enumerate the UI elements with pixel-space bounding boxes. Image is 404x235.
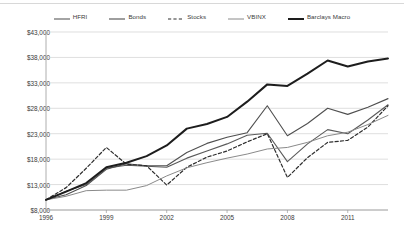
series-line-barclays-macro — [46, 58, 388, 199]
legend-item-barclays-macro[interactable]: Barclays Macro — [288, 13, 350, 20]
plot-area — [46, 32, 388, 210]
x-axis-tick-label: 2011 — [341, 214, 355, 221]
legend-label: VBINX — [247, 13, 266, 20]
x-axis-tick-label: 2005 — [220, 214, 234, 221]
series-layer — [46, 32, 388, 210]
legend-label: Stocks — [187, 13, 206, 20]
y-axis-tick-label: $43,000 — [6, 29, 50, 36]
x-axis-tick-label: 2002 — [160, 214, 174, 221]
legend-item-stocks[interactable]: Stocks — [168, 13, 206, 20]
legend-item-hfri[interactable]: HFRI — [54, 13, 88, 20]
legend-label: HFRI — [73, 13, 88, 20]
x-axis-tick-label: 2008 — [280, 214, 294, 221]
y-axis-tick-label: $23,000 — [6, 130, 50, 137]
legend-item-vbinx[interactable]: VBINX — [228, 13, 266, 20]
top-divider — [0, 3, 404, 4]
y-axis-tick-label: $8,000 — [6, 207, 50, 214]
y-axis-tick-label: $28,000 — [6, 105, 50, 112]
legend-label: Bonds — [128, 13, 146, 20]
legend-label: Barclays Macro — [307, 13, 350, 20]
y-axis-tick-label: $33,000 — [6, 79, 50, 86]
x-axis-tick-label: 1996 — [39, 214, 53, 221]
series-line-hfri — [46, 105, 388, 200]
x-axis-tick-label: 1999 — [99, 214, 113, 221]
chart-legend: HFRIBondsStocksVBINXBarclays Macro — [0, 9, 404, 23]
y-axis-tick-label: $18,000 — [6, 156, 50, 163]
y-axis-tick-label: $38,000 — [6, 54, 50, 61]
series-line-bonds — [46, 99, 388, 200]
growth-of-investment-line-chart: HFRIBondsStocksVBINXBarclays Macro $43,0… — [0, 0, 404, 235]
legend-item-bonds[interactable]: Bonds — [109, 13, 146, 20]
y-axis-tick-label: $13,000 — [6, 181, 50, 188]
